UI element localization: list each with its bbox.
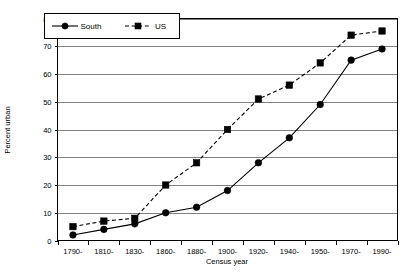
x-tick-label: 1880- [187, 247, 207, 256]
y-tick-label: 40 [43, 126, 51, 135]
x-tick-label: 1830- [125, 247, 145, 256]
y-tick-label: 20 [43, 181, 51, 190]
data-point [101, 226, 108, 233]
data-point [162, 182, 168, 188]
data-point [317, 60, 323, 66]
y-axis-title: Percent urban [3, 106, 12, 153]
chart-background [0, 0, 416, 272]
x-tick-label: 1990- [372, 247, 392, 256]
y-tick-label: 70 [43, 42, 51, 51]
x-tick-label: 1920- [249, 247, 269, 256]
line-chart: 01020304050607080 1790-1810-1830-1860-18… [0, 0, 416, 272]
data-point [224, 187, 231, 194]
y-tick-labels: 01020304050607080 [43, 15, 51, 246]
x-tick-label: 1950- [311, 247, 331, 256]
data-point [255, 96, 261, 102]
data-point [132, 215, 138, 221]
x-axis-title: Census year [206, 257, 249, 266]
x-tick-label: 1810- [94, 247, 114, 256]
legend-marker-square-icon [135, 23, 141, 29]
data-point [224, 126, 230, 132]
x-tick-label: 1860- [156, 247, 176, 256]
data-point [348, 32, 354, 38]
data-point [286, 135, 293, 142]
x-tick-label: 1900- [218, 247, 238, 256]
data-point [379, 46, 386, 53]
legend-label-south: South [81, 22, 102, 31]
y-tick-label: 10 [43, 209, 51, 218]
data-point [193, 160, 199, 166]
data-point [101, 218, 107, 224]
data-point [70, 223, 76, 229]
data-point [317, 101, 324, 108]
chart-container: 01020304050607080 1790-1810-1830-1860-18… [0, 0, 416, 272]
legend-marker-circle-icon [62, 23, 68, 29]
data-point [348, 57, 355, 64]
legend: South US [45, 14, 180, 39]
data-point [193, 204, 200, 211]
x-tick-label: 1970- [342, 247, 362, 256]
x-tick-label: 1940- [280, 247, 300, 256]
x-tick-label: 1790- [63, 247, 83, 256]
data-point [255, 160, 262, 167]
y-tick-label: 60 [43, 70, 51, 79]
data-point [286, 82, 292, 88]
x-tick-labels: 1790-1810-1830-1860-1880-1900-1920-1940-… [63, 247, 392, 256]
y-tick-label: 50 [43, 98, 51, 107]
data-point [70, 232, 77, 239]
legend-label-us: US [155, 22, 166, 31]
y-tick-label: 30 [43, 153, 51, 162]
y-tick-label: 0 [47, 237, 51, 246]
data-point [162, 209, 169, 216]
data-point [379, 28, 385, 34]
